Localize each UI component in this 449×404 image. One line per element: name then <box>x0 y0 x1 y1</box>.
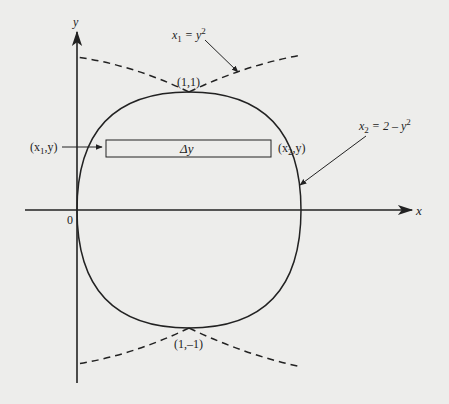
equation-x2-arrow <box>300 136 366 185</box>
right-point-label: (x2,y) <box>278 141 306 157</box>
equation-x1-arrow <box>205 40 238 72</box>
curve-x1-dashed-top <box>189 55 302 92</box>
x-axis-label: x <box>415 203 422 218</box>
curve-x2-dashed-bottom <box>77 328 189 364</box>
left-point-label: (x1,y) <box>30 140 58 156</box>
diagram-canvas: x y 0 Δy (x1,y) (x2,y) (1,1) (1,–1) x1 =… <box>0 0 449 404</box>
intersection-top-label: (1,1) <box>177 75 200 89</box>
y-axis-label: y <box>72 15 79 29</box>
axes: x y 0 <box>25 15 422 383</box>
origin-label: 0 <box>67 213 73 227</box>
intersection-bottom-label: (1,–1) <box>174 337 203 351</box>
equation-x2-label: x2 = 2 – y2 <box>358 117 411 135</box>
equation-x1-label: x1 = y2 <box>171 26 206 44</box>
curve-x1 <box>77 55 302 367</box>
curve-x2-dashed-top <box>77 57 189 92</box>
curve-x1-dashed-bottom <box>189 328 302 367</box>
delta-y-label: Δy <box>179 141 194 156</box>
